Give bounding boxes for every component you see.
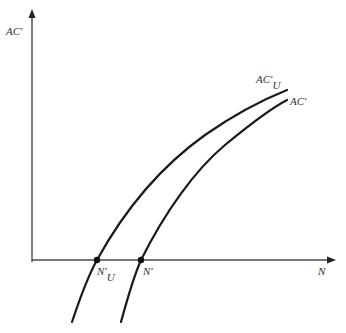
curve-ac-u-label-sub: U	[272, 79, 280, 91]
point-n-u-label-sub: U	[107, 271, 115, 283]
point-n-label: N'	[143, 266, 153, 277]
point-n	[138, 257, 144, 263]
point-n-u	[94, 257, 100, 263]
curve-ac-label: AC'	[290, 96, 306, 107]
curve-ac-u-label: AC'U	[256, 74, 280, 85]
curve-ac-u-label-main: AC'	[256, 73, 272, 85]
curve-ac-u	[72, 90, 287, 322]
y-axis-label: AC'	[6, 26, 22, 37]
y-axis-label-text: AC'	[6, 25, 22, 37]
y-axis-arrow-icon	[29, 9, 36, 18]
point-n-u-label-main: N'	[97, 265, 107, 277]
curve-ac	[121, 100, 287, 322]
point-n-label-text: N'	[143, 265, 153, 277]
diagram: AC' N AC'U AC' N'U N'	[0, 0, 346, 333]
x-axis-label: N	[318, 266, 325, 277]
x-axis-label-text: N	[318, 265, 325, 277]
diagram-canvas	[0, 0, 346, 333]
x-axis-arrow-icon	[327, 257, 336, 264]
curve-ac-label-text: AC'	[290, 95, 306, 107]
point-n-u-label: N'U	[97, 266, 115, 277]
